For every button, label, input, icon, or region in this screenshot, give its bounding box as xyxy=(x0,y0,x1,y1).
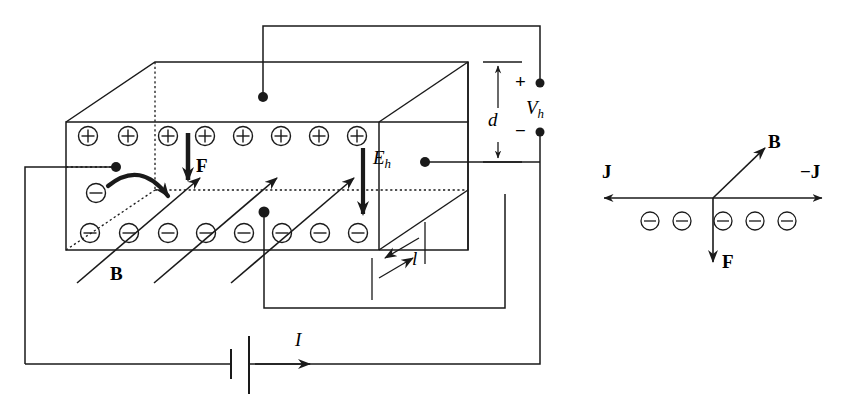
slab-visible-edges xyxy=(66,62,468,250)
battery-symbol xyxy=(231,336,249,394)
current-circuit xyxy=(25,308,540,364)
magnetic-field-label: B xyxy=(110,264,123,283)
top-contact-dot xyxy=(258,92,268,102)
deflection-curve-arrow xyxy=(108,175,168,196)
side-current-density-right-label: −J xyxy=(800,162,820,181)
force-label: F xyxy=(196,156,208,175)
negative-charge-row xyxy=(81,224,368,243)
hall-field-letter: E xyxy=(373,147,385,168)
plus-terminal-label: + xyxy=(515,72,526,91)
hall-voltage-subscript: h xyxy=(538,106,544,121)
plus-terminal-dot xyxy=(536,79,545,88)
hall-voltage-label: Vh xyxy=(526,98,544,121)
side-magnetic-field-label: B xyxy=(768,132,781,151)
minus-terminal-label: − xyxy=(515,121,526,140)
bottom-contact-lead xyxy=(264,194,505,308)
hall-field-label: Eh xyxy=(373,148,391,171)
side-force-label: F xyxy=(722,252,734,271)
hall-field-subscript: h xyxy=(385,156,391,171)
thickness-label: d xyxy=(488,110,498,129)
slab-hidden-edges xyxy=(66,62,468,250)
side-b-field-arrow xyxy=(713,148,765,198)
positive-charge-row xyxy=(79,127,367,146)
hall-voltage-letter: V xyxy=(526,97,538,118)
length-label: l xyxy=(412,249,417,268)
figure-canvas: F Eh B d l I + − Vh J −J B F xyxy=(0,0,860,411)
left-contact-lead xyxy=(25,167,116,364)
side-current-density-left-label: J xyxy=(602,162,612,181)
current-label: I xyxy=(295,330,301,349)
deflected-electron xyxy=(87,184,106,203)
hall-effect-figure xyxy=(0,0,860,411)
right-contact-dot xyxy=(420,157,430,167)
side-electron-row xyxy=(641,212,796,230)
